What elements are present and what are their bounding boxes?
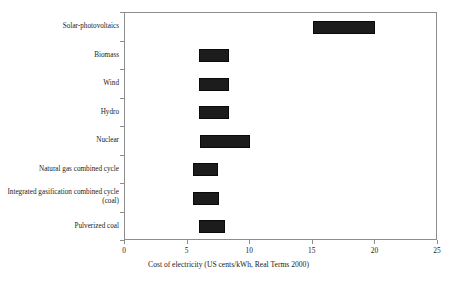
- x-axis-tick-label: 15: [308, 246, 315, 255]
- range-bar: [199, 106, 229, 119]
- y-axis-label: Integrated gasification combined cycle (…: [6, 189, 124, 206]
- x-axis-title: Cost of electricity (US cents/kWh, Real …: [0, 260, 457, 270]
- range-bar: [200, 135, 250, 148]
- x-axis-tick-label: 0: [122, 246, 126, 255]
- x-axis-tick: [312, 240, 313, 244]
- y-axis-label: Pulverized coal: [6, 221, 124, 230]
- x-axis-tick: [437, 240, 438, 244]
- range-bar: [313, 21, 376, 34]
- x-axis-tick: [249, 240, 250, 244]
- x-axis-tick-label: 20: [371, 246, 378, 255]
- x-axis-tick: [374, 240, 375, 244]
- plot-area: [124, 12, 437, 240]
- y-axis-label: Hydro: [6, 107, 124, 116]
- x-axis-tick-label: 5: [185, 246, 189, 255]
- y-axis-label: Natural gas combined cycle: [6, 164, 124, 173]
- y-axis-category-labels: Solar-photovoltaicsBiomassWindHydroNucle…: [0, 0, 124, 283]
- x-axis-tick-label: 10: [245, 246, 252, 255]
- electricity-cost-range-chart: Solar-photovoltaicsBiomassWindHydroNucle…: [0, 0, 457, 283]
- x-axis-tick: [124, 240, 125, 244]
- range-bar: [199, 78, 229, 91]
- range-bar: [193, 192, 219, 205]
- x-axis-tick-label: 25: [433, 246, 440, 255]
- y-axis-label: Nuclear: [6, 136, 124, 145]
- range-bar: [199, 49, 229, 62]
- y-axis-label: Biomass: [6, 50, 124, 59]
- y-axis-label: Wind: [6, 79, 124, 88]
- range-bar: [193, 163, 218, 176]
- x-axis-tick: [187, 240, 188, 244]
- range-bar: [199, 220, 225, 233]
- y-axis-label: Solar-photovoltaics: [6, 22, 124, 31]
